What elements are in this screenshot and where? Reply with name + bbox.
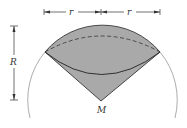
label-r-left: r xyxy=(69,7,74,17)
label-r-right: r xyxy=(127,7,132,17)
label-R: R xyxy=(9,57,17,67)
spherical-sector-diagram: r r R M xyxy=(0,0,187,128)
label-M: M xyxy=(96,105,107,115)
